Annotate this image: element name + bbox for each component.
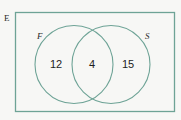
set-circle-S [72, 26, 150, 104]
set-label-F: F [36, 31, 43, 41]
venn-diagram-figure: E F S 12 4 15 [0, 0, 181, 120]
set-label-S: S [145, 31, 150, 41]
region-count-intersection: 4 [89, 58, 95, 70]
venn-diagram-canvas: E F S 12 4 15 [0, 0, 181, 120]
region-count-f-only: 12 [50, 58, 62, 70]
set-circle-F [35, 26, 113, 104]
universal-set-label: E [4, 13, 10, 23]
region-count-s-only: 15 [122, 58, 134, 70]
